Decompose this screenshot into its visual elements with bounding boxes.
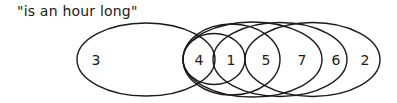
ellipse-canvas: 3415762 [0, 0, 397, 103]
region-label: 6 [332, 52, 341, 68]
region-label: 1 [227, 52, 236, 68]
region-label: 4 [195, 52, 204, 68]
region-label: 5 [262, 52, 271, 68]
region-label: 3 [92, 52, 101, 68]
venn-diagram: "is an hour long" 3415762 [0, 0, 397, 103]
region-label: 7 [298, 52, 307, 68]
label-group: 3415762 [92, 52, 370, 68]
region-label: 2 [361, 52, 370, 68]
